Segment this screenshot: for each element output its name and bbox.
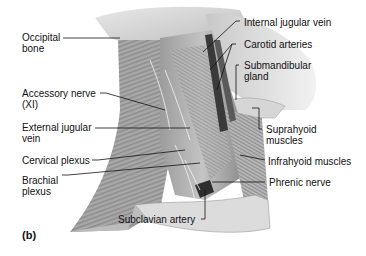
label-subclavian-artery: Subclavian artery: [118, 214, 195, 225]
label-internal-jugular-vein: Internal jugular vein: [244, 17, 331, 28]
label-accessory-nerve: Accessory nerve (XI): [22, 88, 96, 110]
label-occipital-bone: Occipital bone: [22, 32, 60, 54]
label-brachial-plexus: Brachial plexus: [22, 175, 58, 197]
label-carotid-arteries: Carotid arteries: [244, 39, 312, 50]
label-suprahyoid-muscles: Suprahyoid muscles: [266, 124, 317, 146]
label-submandibular-gland: Submandibular gland: [244, 60, 311, 82]
label-phrenic-nerve: Phrenic nerve: [269, 177, 331, 188]
label-cervical-plexus: Cervical plexus: [22, 155, 90, 166]
label-external-jugular-vein: External jugular vein: [22, 122, 91, 144]
panel-label: (b): [22, 229, 36, 241]
label-infrahyoid-muscles: Infrahyoid muscles: [268, 156, 351, 167]
